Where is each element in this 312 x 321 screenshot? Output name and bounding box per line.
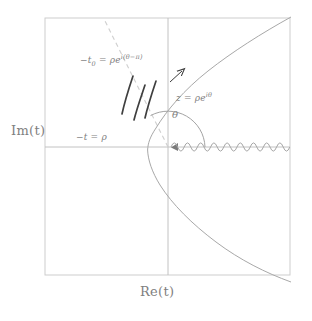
annotation-z-exponent: iθ [206,91,212,99]
annotation-minus-t0: −t0 = ρei(θ−π) [80,54,143,67]
bracket-stroke-inner-left [134,85,145,120]
bracket-stroke-outer-left [122,76,133,114]
plot-canvas [0,0,312,321]
dashed-ray [104,19,168,147]
contour-direction-arrow-icon [170,71,182,82]
y-axis-label: Im(t) [11,124,45,137]
x-axis-label: Re(t) [140,285,174,298]
annotation-z-prefix: z = ρe [176,93,206,103]
annotation-minus-t-equals-rho: −t = ρ [76,133,107,142]
annotation-minus-t0-exponent: i(θ−π) [121,53,143,61]
contour-curve-lower [148,150,291,282]
contour-curve-upper [148,17,291,150]
annotation-minus-t0-eq: = ρe [96,55,121,65]
annotation-theta: θ [172,110,178,120]
annotation-z: z = ρeiθ [176,92,212,103]
complex-plane-figure: −t0 = ρei(θ−π) z = ρeiθ −t = ρ θ Im(t) R… [0,0,312,321]
annotation-minus-t0-prefix: −t [80,55,92,65]
bracket-stroke-inner-right [145,81,156,118]
